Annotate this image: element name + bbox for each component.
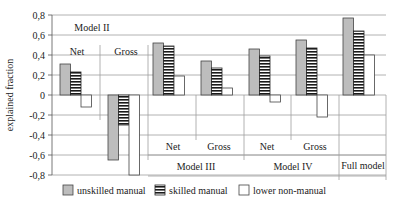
label-full-model: Full model [341, 160, 385, 171]
y-tick-label: 0,4 [33, 50, 46, 61]
label-model-iv: Model IV [273, 161, 313, 172]
bar-lower-non-manual [364, 55, 375, 95]
y-axis-label: explained fraction [4, 59, 15, 131]
bar-skilled-manual [164, 46, 175, 95]
chart-canvas: 0,80,60,40,20-0,2-0,4-0,6-0,8 explained … [0, 0, 404, 207]
y-tick-label: -0,8 [29, 170, 45, 181]
label-model-iii: Model III [177, 161, 216, 172]
bar-unskilled-manual [296, 40, 307, 95]
bar-lower-non-manual [174, 76, 185, 95]
legend-swatch-lower-non-manual [239, 185, 249, 195]
legend-swatch-skilled [155, 185, 165, 195]
bar-lower-non-manual [129, 95, 140, 175]
y-tick-label: -0,6 [29, 150, 45, 161]
y-axis: 0,80,60,40,20-0,2-0,4-0,6-0,8 [29, 10, 52, 181]
label-model-iii-gross: Gross [207, 141, 230, 152]
bar-lower-non-manual [317, 95, 328, 117]
y-tick-label: 0,2 [33, 70, 46, 81]
bar-unskilled-manual [153, 43, 164, 95]
legend-label-skilled: skilled manual [169, 185, 228, 196]
bar-chart: 0,80,60,40,20-0,2-0,4-0,6-0,8 explained … [0, 0, 404, 207]
bar-unskilled-manual [249, 49, 260, 95]
bar-skilled-manual [212, 68, 223, 95]
legend: unskilled manual skilled manual lower no… [63, 185, 326, 196]
legend-label-lower-non-manual: lower non-manual [253, 185, 326, 196]
label-model-iii-net: Net [166, 141, 181, 152]
y-tick-label: -0,2 [29, 110, 45, 121]
bar-unskilled-manual [201, 61, 212, 95]
y-tick-label: 0,8 [33, 10, 46, 21]
label-model-ii-gross: Gross [114, 46, 137, 57]
bar-unskilled-manual [108, 95, 119, 160]
gridlines [52, 15, 386, 180]
bar-skilled-manual [119, 95, 130, 125]
label-model-iv-gross: Gross [303, 141, 326, 152]
legend-label-unskilled: unskilled manual [77, 185, 146, 196]
y-tick-label: -0,4 [29, 130, 45, 141]
label-model-iv-net: Net [260, 141, 275, 152]
bar-skilled-manual [71, 72, 82, 95]
bar-skilled-manual [354, 31, 365, 95]
bar-lower-non-manual [222, 88, 233, 95]
y-tick-label: 0 [40, 90, 45, 101]
label-model-ii-net: Net [70, 46, 85, 57]
bar-skilled-manual [260, 56, 271, 95]
bar-unskilled-manual [343, 18, 354, 95]
bar-lower-non-manual [81, 95, 92, 107]
bar-unskilled-manual [60, 64, 71, 95]
bar-lower-non-manual [270, 95, 281, 102]
label-model-ii: Model II [74, 22, 109, 33]
bar-skilled-manual [307, 48, 318, 95]
legend-swatch-unskilled [63, 185, 73, 195]
y-tick-label: 0,6 [33, 30, 46, 41]
